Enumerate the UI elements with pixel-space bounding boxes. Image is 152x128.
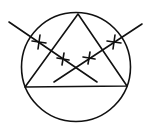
crossing-lines (9, 22, 142, 82)
cross-marker-icon (32, 35, 46, 49)
cross-markers (32, 35, 121, 65)
cross-marker-icon (57, 53, 69, 65)
diagram-shapes (9, 13, 142, 122)
cross-marker-icon (107, 35, 121, 49)
geometry-diagram (0, 0, 152, 128)
